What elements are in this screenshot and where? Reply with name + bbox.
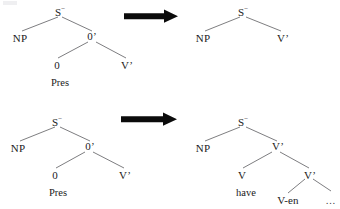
rule-1-output-node-s: S− [238, 6, 248, 18]
rule-2-arrow-icon [121, 112, 177, 127]
rule-1-input-branches [22, 17, 126, 58]
node-superscript: − [61, 5, 65, 13]
rule-2-output-branches [205, 127, 331, 193]
rule-2-output-node-v-bar-1: V’ [272, 141, 284, 152]
rule-2-output-terminal-have: have [236, 188, 256, 199]
node-superscript: − [58, 115, 62, 123]
rule-1-input-terminal-pres: Pres [51, 78, 69, 89]
rule-1-input-node-o-bar: 0’ [87, 31, 96, 42]
tree-branch-lines [0, 0, 340, 209]
rule-1-arrow-icon [124, 9, 178, 24]
rule-2-output-node-v-bar-2: V’ [304, 170, 316, 181]
rule-2-output-node-np: NP [196, 143, 210, 154]
rule-2-input-node-o-bar: 0’ [85, 141, 94, 152]
rule-2-input-branches [20, 127, 124, 168]
rule-2-input-node-s: S− [52, 116, 62, 128]
rule-1-input-node-v-bar: V’ [121, 60, 133, 71]
rule-1-input-node-np: NP [13, 33, 27, 44]
rule-1-input-node-zero: 0 [54, 60, 60, 71]
rule-1-output-node-v-bar: V’ [277, 33, 289, 44]
figure-canvas: S− NP 0’ 0 Pres V’ S− NP V’ S− NP 0’ 0 P… [0, 0, 340, 209]
rule-2-output-node-v-en: V-en [277, 195, 298, 206]
rule-1-input-node-s: S− [55, 6, 65, 18]
rule-2-output-node-v: V [238, 170, 246, 181]
rule-2-input-node-v-bar: V’ [119, 170, 131, 181]
rule-1-output-branches [205, 17, 281, 31]
node-superscript: − [244, 5, 248, 13]
rule-2-input-node-zero: 0 [52, 170, 58, 181]
node-superscript: − [244, 115, 248, 123]
rule-2-output-node-s: S− [238, 116, 248, 128]
rule-1-output-node-np: NP [196, 33, 210, 44]
rule-2-input-node-np: NP [11, 143, 25, 154]
scan-artifact [3, 1, 17, 5]
rule-2-input-terminal-pres: Pres [49, 188, 67, 199]
rule-2-output-node-ellipsis: … [326, 196, 337, 206]
